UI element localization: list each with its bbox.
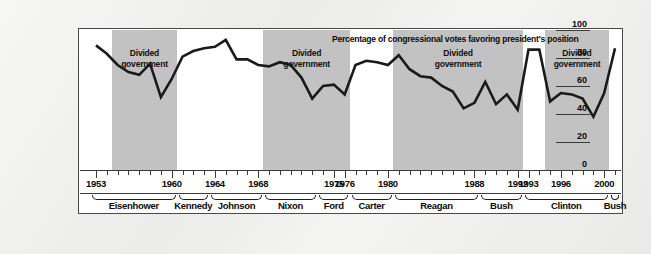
x-axis-year-label: 1968 — [248, 178, 268, 189]
x-axis-tick — [572, 171, 573, 175]
x-axis-tick — [334, 171, 335, 178]
president-row-divider — [80, 193, 621, 194]
plot-area: DividedgovernmentDividedgovernmentDivide… — [80, 30, 621, 170]
x-axis-tick — [128, 171, 129, 175]
x-axis-year-label: 1953 — [86, 178, 106, 189]
x-axis-tick — [539, 171, 540, 175]
x-axis-tick — [442, 171, 443, 175]
y-axis-tick-label: 80 — [556, 47, 587, 57]
x-axis-tick — [507, 171, 508, 175]
x-axis-year-label: 1964 — [205, 178, 225, 189]
x-axis-tick — [118, 171, 119, 175]
y-axis-tick: 80 — [556, 58, 596, 59]
x-axis-tick — [410, 171, 411, 175]
x-axis-tick — [247, 171, 248, 175]
x-axis-tick — [193, 171, 194, 175]
y-axis-tick: 40 — [556, 114, 596, 115]
x-axis-tick — [258, 171, 259, 178]
president-name-label: Ford — [324, 200, 344, 211]
y-axis-tick-rule — [556, 30, 590, 31]
x-axis-tick — [345, 171, 346, 178]
president-name-label: Eisenhower — [109, 200, 159, 211]
x-axis-tick — [161, 171, 162, 175]
y-axis-tick: 60 — [556, 86, 596, 87]
y-axis-tick-label: 100 — [556, 19, 587, 29]
x-axis-tick — [399, 171, 400, 175]
x-axis-tick — [312, 171, 313, 175]
x-axis-tick — [237, 171, 238, 175]
president-name-label: Kennedy — [174, 200, 212, 211]
x-axis-year-label: 1976 — [335, 178, 355, 189]
x-axis-tick — [496, 171, 497, 175]
x-axis-tick — [204, 171, 205, 175]
x-axis-tick — [301, 171, 302, 175]
x-axis-tick — [453, 171, 454, 175]
president-name-label: Reagan — [420, 200, 453, 211]
x-axis-year-label: 1996 — [551, 178, 571, 189]
x-axis-year-label: 1980 — [378, 178, 398, 189]
x-axis-tick — [172, 171, 173, 178]
x-axis-tick — [561, 171, 562, 178]
president-name-label: Clinton — [551, 200, 582, 211]
series-line-chart — [80, 30, 621, 170]
x-axis-tick — [518, 171, 519, 178]
y-axis-tick-rule — [556, 114, 590, 115]
x-axis-tick — [583, 171, 584, 175]
y-axis-tick-label: 20 — [556, 131, 587, 141]
x-axis-tick — [139, 171, 140, 175]
x-axis-tick — [280, 171, 281, 175]
x-axis-tick — [464, 171, 465, 175]
figure-page: DividedgovernmentDividedgovernmentDivide… — [0, 0, 651, 254]
x-axis-tick — [226, 171, 227, 175]
x-axis-tick — [431, 171, 432, 175]
x-axis-year-label: 1960 — [162, 178, 182, 189]
x-axis-tick — [593, 171, 594, 175]
x-axis-tick — [529, 171, 530, 178]
x-axis-tick — [604, 171, 605, 178]
x-axis-year-label: 2000 — [594, 178, 614, 189]
president-name-label: Johnson — [218, 200, 255, 211]
y-axis: 100806040200 — [556, 30, 596, 170]
president-name-label: Nixon — [278, 200, 303, 211]
x-axis-tick — [215, 171, 216, 178]
y-axis-tick-label: 60 — [556, 75, 587, 85]
x-axis-tick — [615, 171, 616, 175]
x-axis-tick — [377, 171, 378, 175]
x-axis-tick — [150, 171, 151, 175]
x-axis-tick — [356, 171, 357, 175]
x-axis-tick — [323, 171, 324, 175]
y-axis-tick-label: 40 — [556, 103, 587, 113]
x-axis-tick — [485, 171, 486, 175]
x-axis-tick — [550, 171, 551, 175]
x-axis-tick — [474, 171, 475, 178]
series-line — [96, 40, 615, 117]
y-axis-tick-rule — [556, 58, 590, 59]
president-name-label: Bush — [490, 200, 513, 211]
y-axis-tick-rule — [556, 142, 590, 143]
y-axis-tick-rule — [556, 86, 590, 87]
x-axis-tick — [291, 171, 292, 175]
y-axis-tick: 20 — [556, 142, 596, 143]
y-axis-tick-label: 0 — [556, 159, 587, 169]
x-axis-year-label: 1993 — [519, 178, 539, 189]
x-axis-tick — [388, 171, 389, 178]
x-axis-tick — [107, 171, 108, 175]
x-axis-tick — [420, 171, 421, 175]
chart-title: Percentage of congressional votes favori… — [332, 34, 579, 44]
x-axis-tick — [96, 171, 97, 178]
president-name-label: Bush — [604, 200, 627, 211]
x-axis-tick — [366, 171, 367, 175]
y-axis-tick: 100 — [556, 30, 596, 31]
x-axis-tick — [269, 171, 270, 175]
president-name-label: Carter — [359, 200, 385, 211]
x-axis-year-label: 1988 — [464, 178, 484, 189]
x-axis-tick — [183, 171, 184, 175]
